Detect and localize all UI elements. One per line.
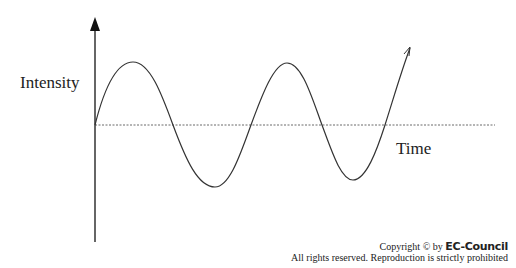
copyright-notice: Copyright © by EC-Council All rights res…: [291, 241, 508, 263]
x-axis-label: Time: [396, 139, 431, 159]
signal-diagram: [0, 0, 516, 268]
rights-text: All rights reserved. Reproduction is str…: [291, 252, 508, 263]
sine-wave: [95, 48, 410, 187]
copyright-prefix: Copyright © by: [380, 241, 446, 252]
y-axis-arrow-icon: [90, 17, 100, 31]
y-axis-label: Intensity: [20, 73, 80, 93]
